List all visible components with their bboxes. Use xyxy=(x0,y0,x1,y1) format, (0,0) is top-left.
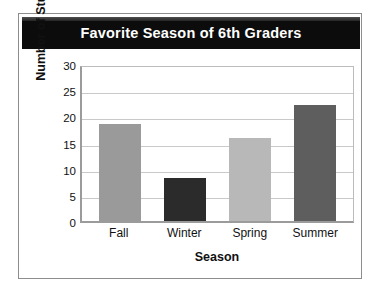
bar-slot xyxy=(282,67,347,221)
x-axis-tick-labels: FallWinterSpringSummer xyxy=(80,226,354,240)
x-tick-label: Spring xyxy=(217,226,283,240)
bar-slot xyxy=(88,67,153,221)
bar-winter xyxy=(164,178,206,221)
y-axis-tick-labels: 051015202530 xyxy=(50,66,76,223)
bars-layer xyxy=(82,67,353,221)
x-tick-label: Winter xyxy=(152,226,218,240)
y-tick-label: 25 xyxy=(50,86,76,98)
y-tick-label: 10 xyxy=(50,165,76,177)
y-tick-label: 20 xyxy=(50,112,76,124)
chart-figure-frame: Favorite Season of 6th Graders Number of… xyxy=(18,13,362,279)
bar-summer xyxy=(294,105,336,221)
y-tick-label: 5 xyxy=(50,191,76,203)
bar-slot xyxy=(153,67,218,221)
bar-fall xyxy=(99,124,141,221)
x-tick-label: Summer xyxy=(283,226,349,240)
page-title: Favorite Season of 6th Graders xyxy=(80,25,301,41)
bar-spring xyxy=(229,138,271,221)
x-tick-label: Fall xyxy=(86,226,152,240)
bar-slot xyxy=(218,67,283,221)
y-axis-title: Number of Students xyxy=(34,0,50,86)
y-tick-label: 15 xyxy=(50,139,76,151)
y-tick-label: 0 xyxy=(50,217,76,229)
x-axis-title: Season xyxy=(80,250,354,264)
plot-region: Number of Students 051015202530 FallWint… xyxy=(22,50,358,275)
plot-area xyxy=(80,66,354,223)
y-tick-label: 30 xyxy=(50,60,76,72)
chart-title-banner: Favorite Season of 6th Graders xyxy=(22,17,360,49)
